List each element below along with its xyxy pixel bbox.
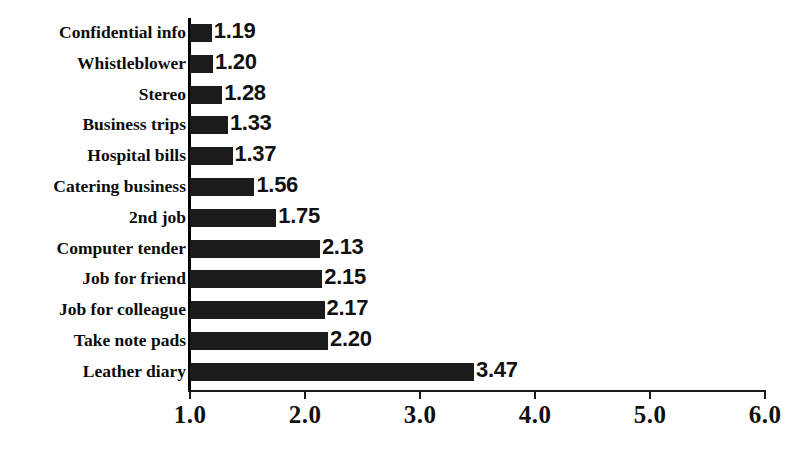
category-label: Catering business bbox=[6, 175, 186, 197]
bar-row: Job for colleague2.17 bbox=[0, 299, 808, 321]
bar bbox=[190, 116, 228, 134]
bar-row: Business trips1.33 bbox=[0, 114, 808, 136]
bar-value-label: 1.37 bbox=[235, 143, 277, 165]
category-label: Confidential info bbox=[6, 21, 186, 43]
x-tick-label: 5.0 bbox=[615, 401, 685, 429]
bar-row: Stereo1.28 bbox=[0, 84, 808, 106]
x-tick-mark bbox=[304, 390, 306, 399]
bar-value-label: 2.17 bbox=[327, 297, 369, 319]
category-label: Whistleblower bbox=[6, 52, 186, 74]
bar bbox=[190, 332, 328, 350]
bar bbox=[190, 301, 325, 319]
bar-value-label: 1.33 bbox=[230, 112, 272, 134]
bar-value-label: 2.20 bbox=[330, 328, 372, 350]
category-label: Stereo bbox=[6, 83, 186, 105]
bar-row: Hospital bills1.37 bbox=[0, 145, 808, 167]
bar bbox=[190, 147, 233, 165]
bar-row: Whistleblower1.20 bbox=[0, 53, 808, 75]
category-label: Job for friend bbox=[6, 267, 186, 289]
category-label: 2nd job bbox=[6, 206, 186, 228]
x-tick-mark bbox=[534, 390, 536, 399]
bar-value-label: 2.15 bbox=[324, 266, 366, 288]
x-tick-label: 2.0 bbox=[270, 401, 340, 429]
x-tick-mark bbox=[649, 390, 651, 399]
bar-value-label: 1.28 bbox=[224, 82, 266, 104]
category-label: Business trips bbox=[6, 113, 186, 135]
bar-row: Confidential info1.19 bbox=[0, 22, 808, 44]
bar-value-label: 1.20 bbox=[215, 51, 257, 73]
bar-value-label: 1.56 bbox=[256, 174, 298, 196]
bar-value-label: 1.75 bbox=[278, 205, 320, 227]
x-tick-mark bbox=[419, 390, 421, 399]
bar bbox=[190, 55, 213, 73]
category-label: Hospital bills bbox=[6, 144, 186, 166]
bar-value-label: 2.13 bbox=[322, 236, 364, 258]
bar-chart: 1.02.03.04.05.06.0 Confidential info1.19… bbox=[0, 0, 808, 467]
bar bbox=[190, 86, 222, 104]
category-label: Job for colleague bbox=[6, 298, 186, 320]
x-tick-label: 3.0 bbox=[385, 401, 455, 429]
bar-value-label: 3.47 bbox=[476, 359, 518, 381]
bar bbox=[190, 24, 212, 42]
bar bbox=[190, 209, 276, 227]
x-tick-mark bbox=[764, 390, 766, 399]
x-tick-label: 1.0 bbox=[155, 401, 225, 429]
x-tick-label: 4.0 bbox=[500, 401, 570, 429]
bar-row: Job for friend2.15 bbox=[0, 268, 808, 290]
x-tick-mark bbox=[189, 390, 191, 399]
category-label: Leather diary bbox=[6, 360, 186, 382]
bar-row: Leather diary3.47 bbox=[0, 361, 808, 383]
category-label: Computer tender bbox=[6, 237, 186, 259]
x-axis-line bbox=[188, 390, 766, 392]
bar bbox=[190, 240, 320, 258]
bar-row: Catering business1.56 bbox=[0, 176, 808, 198]
bar bbox=[190, 363, 474, 381]
bar-value-label: 1.19 bbox=[214, 20, 256, 42]
x-tick-label: 6.0 bbox=[730, 401, 800, 429]
bar-row: 2nd job1.75 bbox=[0, 207, 808, 229]
bar-row: Take note pads2.20 bbox=[0, 330, 808, 352]
bar bbox=[190, 270, 322, 288]
bar-row: Computer tender2.13 bbox=[0, 238, 808, 260]
category-label: Take note pads bbox=[6, 329, 186, 351]
bar bbox=[190, 178, 254, 196]
